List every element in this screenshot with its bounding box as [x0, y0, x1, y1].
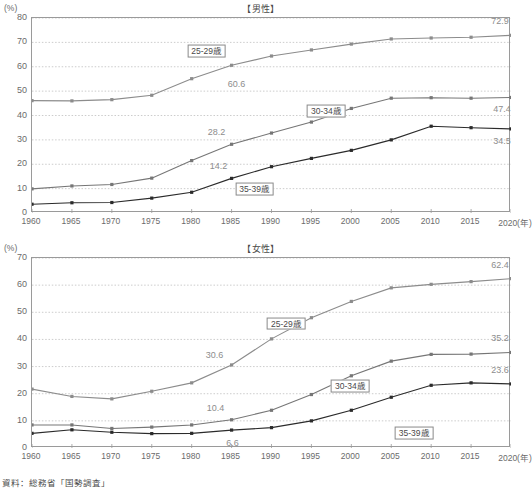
y-axis-tick-label: 20: [5, 388, 27, 398]
data-point-marker: [390, 37, 393, 40]
x-axis-tick-label: 1965: [61, 451, 80, 461]
series-label-35-39: 35-39歳: [395, 427, 434, 440]
data-point-marker: [230, 143, 233, 146]
data-value-label: 30.6: [206, 350, 224, 360]
data-point-marker: [509, 96, 511, 99]
x-axis-tick-label: 2000: [341, 216, 360, 226]
y-axis-tick-label: 20: [5, 158, 27, 168]
data-point-marker: [509, 351, 511, 354]
data-point-marker: [509, 382, 511, 385]
y-axis-tick-label: 40: [5, 110, 27, 120]
data-value-label: 23.6: [491, 365, 509, 375]
data-point-marker: [150, 177, 153, 180]
x-axis-tick-label: 1965: [61, 216, 80, 226]
data-point-marker: [430, 96, 433, 99]
data-value-label: 6.6: [226, 438, 239, 448]
data-point-marker: [70, 184, 73, 187]
data-point-marker: [190, 191, 193, 194]
series-label-25-29: 25-29歳: [267, 317, 306, 330]
data-point-marker: [150, 197, 153, 200]
y-axis-tick-label: 10: [5, 415, 27, 425]
data-point-marker: [469, 36, 472, 39]
data-value-label: 62.4: [491, 260, 509, 270]
data-value-label: 35.2: [491, 333, 509, 343]
series-label-25-29: 25-29歳: [187, 45, 226, 58]
data-point-marker: [350, 409, 353, 412]
y-axis-tick-label: 60: [5, 279, 27, 289]
data-point-marker: [270, 131, 273, 134]
y-axis-tick-label: 80: [5, 12, 27, 22]
data-point-marker: [350, 149, 353, 152]
chart-title-male: 【男性】: [0, 2, 522, 15]
x-axis-tick-label: 2005: [381, 216, 400, 226]
data-point-marker: [70, 423, 73, 426]
x-axis-tick-label: 1975: [141, 216, 160, 226]
data-point-marker: [350, 42, 353, 45]
data-point-marker: [190, 381, 193, 384]
data-point-marker: [469, 126, 472, 129]
plot-area-female: [31, 257, 510, 447]
data-point-marker: [270, 165, 273, 168]
data-point-marker: [190, 432, 193, 435]
data-point-marker: [110, 431, 113, 434]
y-axis-tick-label: 30: [5, 134, 27, 144]
data-point-marker: [430, 283, 433, 286]
data-point-marker: [150, 94, 153, 97]
data-point-marker: [270, 54, 273, 57]
data-point-marker: [310, 48, 313, 51]
x-axis-tick-label: 1995: [301, 451, 320, 461]
data-value-label: 47.4: [493, 104, 511, 114]
plot-canvas-female: [32, 258, 511, 448]
x-axis-tick-label: 1995: [301, 216, 320, 226]
series-line: [32, 352, 511, 428]
data-point-marker: [469, 381, 472, 384]
data-value-label: 14.2: [210, 161, 228, 171]
x-axis-tick-label: 2020(年): [498, 451, 532, 463]
x-axis-tick-label: 1970: [101, 216, 120, 226]
x-axis-tick-label: 2015: [461, 216, 480, 226]
data-point-marker: [310, 393, 313, 396]
chart-female: (%) 【女性】 0102030405060701960196519701975…: [0, 240, 522, 475]
x-axis-tick-label: 1980: [181, 216, 200, 226]
data-point-marker: [390, 286, 393, 289]
data-point-marker: [430, 353, 433, 356]
data-point-marker: [70, 201, 73, 204]
x-axis-tick-label: 2015: [461, 451, 480, 461]
data-point-marker: [310, 157, 313, 160]
x-axis-tick-label: 2005: [381, 451, 400, 461]
y-axis-tick-label: 30: [5, 361, 27, 371]
data-value-label: 60.6: [228, 79, 246, 89]
data-point-marker: [310, 120, 313, 123]
data-point-marker: [350, 300, 353, 303]
series-label-35-39: 35-39歳: [235, 182, 274, 195]
data-point-marker: [430, 384, 433, 387]
y-axis-tick-label: 70: [5, 252, 27, 262]
y-axis-tick-label: 10: [5, 183, 27, 193]
data-point-marker: [270, 426, 273, 429]
series-label-30-34: 30-34歳: [307, 104, 346, 117]
data-point-marker: [32, 388, 34, 391]
data-point-marker: [270, 337, 273, 340]
x-axis-tick-label: 2000: [341, 451, 360, 461]
data-value-label: 28.2: [208, 127, 226, 137]
y-axis-tick-label: 50: [5, 85, 27, 95]
x-axis-tick-label: 1980: [181, 451, 200, 461]
x-axis-tick-label: 1985: [221, 451, 240, 461]
series-line: [32, 97, 511, 188]
data-point-marker: [230, 363, 233, 366]
data-point-marker: [150, 426, 153, 429]
data-point-marker: [310, 316, 313, 319]
data-point-marker: [70, 428, 73, 431]
data-point-marker: [230, 428, 233, 431]
data-point-marker: [230, 177, 233, 180]
x-axis-tick-label: 1985: [221, 216, 240, 226]
data-point-marker: [469, 352, 472, 355]
chart-male: (%) 【男性】 0102030405060708019601965197019…: [0, 0, 522, 240]
data-point-marker: [110, 397, 113, 400]
y-axis-tick-label: 40: [5, 333, 27, 343]
data-point-marker: [110, 98, 113, 101]
data-point-marker: [509, 277, 511, 280]
data-point-marker: [350, 107, 353, 110]
data-point-marker: [390, 138, 393, 141]
data-point-marker: [430, 36, 433, 39]
